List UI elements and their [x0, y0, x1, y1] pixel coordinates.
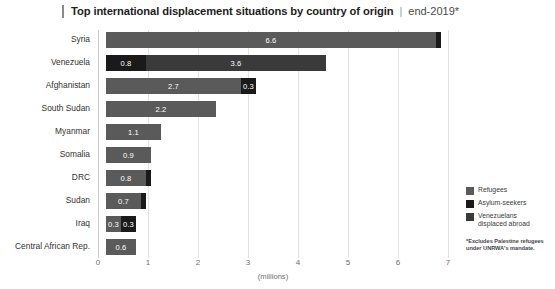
- bar-value-label: 3.6: [231, 59, 242, 68]
- category-label-venezuela: Venezuela: [0, 51, 98, 74]
- bar-track: 6.6: [98, 28, 555, 51]
- bar-segment-asylum-seekers[interactable]: 0.3: [121, 216, 136, 232]
- bar-segment-refugees[interactable]: 6.6: [106, 32, 436, 48]
- legend-label: Asylum-seekers: [478, 199, 526, 207]
- x-axis-label: (millions): [0, 272, 448, 281]
- x-axis-label-text: (millions): [258, 272, 288, 281]
- x-tick-2: 2: [196, 258, 200, 267]
- square-swatch-icon: [466, 200, 474, 208]
- x-tick-5: 5: [346, 258, 350, 267]
- bar-value-label: 2.7: [168, 82, 179, 91]
- bar-value-label: 0.7: [118, 197, 129, 206]
- bar-value-label: 0.6: [116, 243, 127, 252]
- legend-label: Venezuelansdisplaced abroad: [478, 212, 530, 229]
- title-divider: [62, 5, 64, 18]
- bar-value-label: 2.2: [156, 105, 167, 114]
- bar-value-label: 0.3: [108, 220, 119, 229]
- bar-row: Venezuela0.83.6: [0, 51, 555, 74]
- category-label-afghanistan: Afghanistan: [0, 74, 98, 97]
- bar-segment-asylum-seekers[interactable]: 0.3: [241, 78, 256, 94]
- legend-item[interactable]: Asylum-seekers: [466, 199, 554, 208]
- category-label-myanmar: Myanmar: [0, 120, 98, 143]
- bar-row: South Sudan2.2: [0, 97, 555, 120]
- square-swatch-icon: [466, 213, 474, 221]
- category-label-south-sudan: South Sudan: [0, 97, 98, 120]
- bar-row: Afghanistan2.70.3: [0, 74, 555, 97]
- bar-segment-refugees[interactable]: 1.1: [106, 124, 161, 140]
- bar-track: 0.9: [98, 143, 555, 166]
- bar-track: 2.70.3: [98, 74, 555, 97]
- bar-value-label: 0.8: [121, 59, 132, 68]
- bar-segment-asylum-seekers[interactable]: 0.8: [106, 55, 146, 71]
- bar-segment-asylum-seekers[interactable]: [146, 170, 151, 186]
- category-label-drc: DRC: [0, 166, 98, 189]
- bar-value-label: 0.3: [243, 82, 254, 91]
- bar-segment-refugees[interactable]: 0.7: [106, 193, 141, 209]
- bar-segment-asylum-seekers[interactable]: [436, 32, 441, 48]
- page-title: Top international displacement situation…: [71, 5, 393, 17]
- bar-segment-refugees[interactable]: 0.6: [106, 239, 136, 255]
- bar-segment-refugees[interactable]: 0.8: [106, 170, 146, 186]
- bar-value-label: 6.6: [266, 36, 277, 45]
- bar-track: 1.1: [98, 120, 555, 143]
- title-separator: |: [399, 5, 402, 17]
- bar-value-label: 0.9: [123, 151, 134, 160]
- legend-label: Refugees: [478, 186, 507, 194]
- category-label-central-african-rep: Central African Rep.: [0, 235, 98, 258]
- category-label-iraq: Iraq: [0, 212, 98, 235]
- bar-segment-asylum-seekers[interactable]: [141, 193, 146, 209]
- bar-value-label: 1.1: [128, 128, 139, 137]
- x-tick-1: 1: [146, 258, 150, 267]
- chart-header: Top international displacement situation…: [0, 0, 555, 22]
- category-label-somalia: Somalia: [0, 143, 98, 166]
- bar-segment-refugees[interactable]: 0.3: [106, 216, 121, 232]
- bar-value-label: 0.8: [121, 174, 132, 183]
- title-subtitle: end-2019*: [408, 5, 459, 17]
- bar-row: Syria6.6: [0, 28, 555, 51]
- category-label-syria: Syria: [0, 28, 98, 51]
- bar-track: 0.83.6: [98, 51, 555, 74]
- bar-value-label: 0.3: [123, 220, 134, 229]
- chart-legend: RefugeesAsylum-seekersVenezuelansdisplac…: [466, 186, 554, 233]
- category-label-sudan: Sudan: [0, 189, 98, 212]
- x-tick-7: 7: [446, 258, 450, 267]
- chart-footnote: *Excludes Palestine refugees under UNRWA…: [466, 238, 552, 253]
- bar-track: 2.2: [98, 97, 555, 120]
- bar-row: Myanmar1.1: [0, 120, 555, 143]
- bar-segment-venezuelans-displaced-abroad[interactable]: 3.6: [146, 55, 326, 71]
- bar-segment-refugees[interactable]: 2.2: [106, 101, 216, 117]
- legend-item[interactable]: Venezuelansdisplaced abroad: [466, 212, 554, 229]
- x-tick-3: 3: [246, 258, 250, 267]
- legend-item[interactable]: Refugees: [466, 186, 554, 195]
- x-tick-0: 0: [96, 258, 100, 267]
- square-swatch-icon: [466, 187, 474, 195]
- bar-row: Somalia0.9: [0, 143, 555, 166]
- bar-segment-refugees[interactable]: 2.7: [106, 78, 241, 94]
- x-tick-4: 4: [296, 258, 300, 267]
- x-tick-6: 6: [396, 258, 400, 267]
- bar-segment-refugees[interactable]: 0.9: [106, 147, 151, 163]
- x-axis: 01234567: [0, 258, 555, 270]
